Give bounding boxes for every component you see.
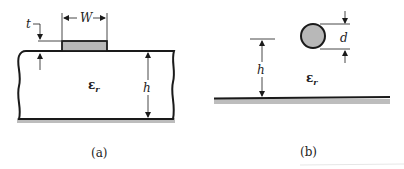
diagram-canvas: W t h εr (a) d h εr [0, 0, 404, 169]
height-label-a: h [143, 81, 151, 95]
t-arrow-down [37, 34, 43, 40]
width-label: W [80, 11, 94, 25]
ground-plane-b [214, 99, 390, 104]
height-label-b: h [257, 63, 265, 77]
strip-conductor [62, 41, 107, 51]
ground-line-b [214, 97, 390, 99]
caption-b: (b) [300, 145, 317, 159]
panel-a-microstrip: W t h εr (a) [17, 11, 175, 160]
caption-a: (a) [91, 146, 108, 160]
scan-artifact-line [300, 164, 404, 165]
thickness-label: t [26, 17, 31, 31]
round-wire-conductor [301, 24, 325, 48]
panel-b-wire-over-ground: d h εr (b) [214, 11, 404, 165]
diameter-label: d [340, 31, 348, 45]
permittivity-label-b: εr [306, 71, 318, 87]
